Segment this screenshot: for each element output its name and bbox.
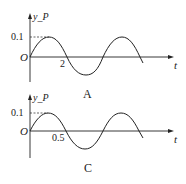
origin-label: O [20,126,28,137]
charts-canvas [0,0,186,184]
y-axis-arrow-icon [28,94,32,100]
y-tick-label: 0.1 [11,32,24,42]
x-tick-label: 0.5 [52,133,65,143]
chart-c [28,94,174,158]
wave-curve [30,37,143,75]
x-axis-label: t [174,60,177,71]
chart-a [28,13,174,82]
y-axis-label: y_P [33,93,49,103]
y-axis-arrow-icon [28,13,32,19]
panel-label: C [84,162,92,174]
origin-label: O [20,52,28,63]
y-axis-label: y_P [33,12,49,22]
y-tick-label: 0.1 [11,108,24,118]
x-tick-label: 2 [60,59,65,69]
x-axis-label: t [174,134,177,145]
panel-label: A [83,88,92,100]
